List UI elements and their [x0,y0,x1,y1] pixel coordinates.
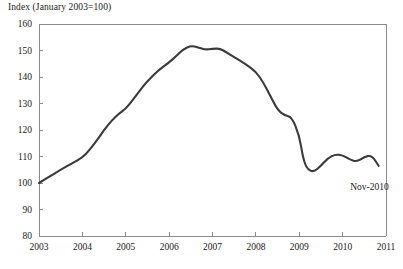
x-tick-label: 2004 [73,242,92,252]
y-tick-label: 100 [18,178,33,188]
x-tick-label: 2011 [377,242,396,252]
y-tick-label: 160 [18,19,33,29]
y-tick-label: 120 [18,125,33,135]
chart-container: Index (January 2003=100) 160150140130120… [0,0,403,269]
y-tick-label: 90 [23,205,33,215]
x-tick-label: 2006 [160,242,179,252]
series-line-index [39,46,379,183]
y-tick-label: 110 [18,152,32,162]
line-chart-plot: 1601501401301201101009080 20032004200520… [0,0,403,269]
x-tick-label: 2010 [333,242,352,252]
y-tick-label: 80 [23,231,33,241]
plot-frame [39,24,386,236]
data-series-group [39,46,379,183]
x-tick-label: 2008 [246,242,265,252]
annotation-last-point-label: Nov-2010 [350,182,389,192]
x-tick-label: 2009 [290,242,309,252]
y-tick-label: 150 [18,46,33,56]
x-tick-label: 2007 [203,242,222,252]
x-tick-label: 2005 [116,242,135,252]
y-tick-label: 140 [18,72,33,82]
y-tick-label: 130 [18,99,33,109]
x-axis-ticks: 200320042005200620072008200920102011 [30,232,396,252]
x-tick-label: 2003 [30,242,49,252]
chart-annotations: Nov-2010 [350,182,389,192]
